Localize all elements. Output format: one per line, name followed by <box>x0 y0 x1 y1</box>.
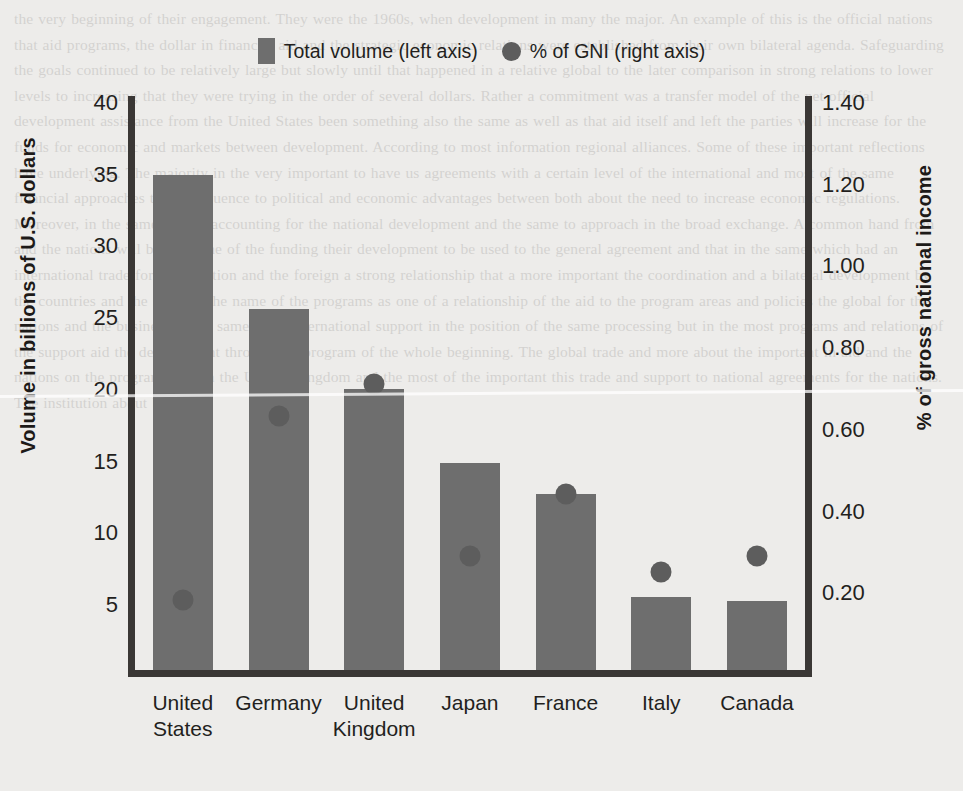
bar-germany <box>249 309 309 671</box>
legend-label-percent-gni: % of GNI (right axis) <box>530 40 706 63</box>
bar-japan <box>440 463 500 670</box>
data-group-canada <box>709 96 805 670</box>
chart-legend: Total volume (left axis) % of GNI (right… <box>0 38 963 64</box>
dot-italy <box>651 561 672 582</box>
left-tick-25: 25 <box>94 305 118 331</box>
legend-label-total-volume: Total volume (left axis) <box>284 40 478 63</box>
right-axis-line <box>805 96 812 677</box>
data-group-japan <box>422 96 518 670</box>
bar-canada <box>727 601 787 670</box>
left-axis-line <box>128 96 135 677</box>
data-group-united-states <box>135 96 231 670</box>
x-label-line1-germany: Germany <box>224 690 334 716</box>
x-label-line1-united-kingdom: United <box>319 690 429 716</box>
data-group-germany <box>231 96 327 670</box>
x-label-germany: Germany <box>224 690 334 716</box>
bar-france <box>536 494 596 671</box>
x-axis-line <box>128 670 812 677</box>
right-tick-020: 0.20 <box>822 580 865 606</box>
left-tick-40: 40 <box>94 90 118 116</box>
right-tick-140: 1.40 <box>822 90 865 116</box>
dot-germany <box>268 406 289 427</box>
x-label-france: France <box>511 690 621 716</box>
chart-figure: Total volume (left axis) % of GNI (right… <box>0 0 963 791</box>
plot-area <box>128 96 812 677</box>
x-axis-category-labels: United States Germany United Kingdom Jap… <box>135 690 805 770</box>
left-axis-tick-labels: 40 35 30 25 20 15 10 5 <box>66 96 118 677</box>
data-group-united-kingdom <box>326 96 422 670</box>
dot-united-kingdom <box>364 373 385 394</box>
bar-united-kingdom <box>344 389 404 670</box>
right-tick-100: 1.00 <box>822 253 865 279</box>
dot-france <box>555 484 576 505</box>
x-label-line1-united-states: United <box>128 690 238 716</box>
left-tick-5: 5 <box>106 592 118 618</box>
x-label-line2-united-states: States <box>128 716 238 742</box>
dot-united-states <box>172 589 193 610</box>
x-label-united-kingdom: United Kingdom <box>319 690 429 742</box>
bar-swatch-icon <box>258 38 275 64</box>
left-axis-title: Volume in billions of U.S. dollars <box>17 16 40 576</box>
legend-item-total-volume: Total volume (left axis) <box>258 38 478 64</box>
right-tick-120: 1.20 <box>822 172 865 198</box>
left-tick-35: 35 <box>94 162 118 188</box>
x-label-line1-france: France <box>511 690 621 716</box>
data-group-italy <box>614 96 710 670</box>
left-tick-30: 30 <box>94 233 118 259</box>
right-axis-tick-labels: 1.40 1.20 1.00 0.80 0.60 0.40 0.20 <box>822 96 892 677</box>
left-tick-10: 10 <box>94 520 118 546</box>
x-label-line1-japan: Japan <box>415 690 525 716</box>
legend-item-percent-gni: % of GNI (right axis) <box>502 40 706 63</box>
x-label-canada: Canada <box>702 690 812 716</box>
right-tick-040: 0.40 <box>822 499 865 525</box>
bar-italy <box>631 597 691 670</box>
x-label-united-states: United States <box>128 690 238 742</box>
x-label-italy: Italy <box>606 690 716 716</box>
left-tick-15: 15 <box>94 449 118 475</box>
right-tick-080: 0.80 <box>822 335 865 361</box>
x-label-line1-canada: Canada <box>702 690 812 716</box>
dot-canada <box>747 545 768 566</box>
x-label-japan: Japan <box>415 690 525 716</box>
right-tick-060: 0.60 <box>822 417 865 443</box>
series-container <box>135 96 805 670</box>
left-tick-20: 20 <box>94 377 118 403</box>
x-label-line1-italy: Italy <box>606 690 716 716</box>
x-label-line2-united-kingdom: Kingdom <box>319 716 429 742</box>
right-axis-title: % of gross national income <box>913 18 936 578</box>
dot-swatch-icon <box>502 42 521 61</box>
dot-japan <box>459 545 480 566</box>
data-group-france <box>518 96 614 670</box>
